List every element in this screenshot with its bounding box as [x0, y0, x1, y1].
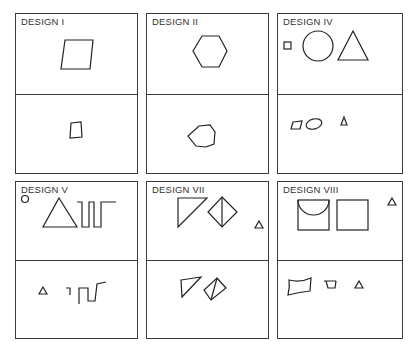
skewed-triangle-shape: [181, 277, 201, 297]
panel-design-5: DESIGN V: [15, 181, 138, 339]
trapezoid-shape: [324, 281, 336, 288]
panel-design-2: DESIGN II: [146, 13, 269, 174]
distorted-quadrilateral-shape: [288, 278, 311, 295]
triangle-shape: [43, 198, 77, 227]
small-parallelogram-shape: [291, 121, 302, 129]
small-triangle-shape-2: [355, 281, 363, 288]
panel-drawing: [147, 182, 270, 340]
right-triangle-shape: [178, 198, 207, 227]
ellipse-shape: [305, 117, 323, 131]
small-circle-shape: [22, 196, 29, 203]
small-triangle-shape: [388, 198, 396, 205]
square-wave-fragment-shape-2: [79, 282, 106, 304]
panel-drawing: [278, 14, 404, 175]
panel-drawing: [278, 182, 404, 340]
parallelogram-shape: [61, 40, 93, 69]
panel-drawing: [16, 182, 139, 340]
panel-design-1: DESIGN I: [15, 13, 138, 174]
square-shape: [337, 200, 368, 230]
small-square-shape: [284, 42, 291, 49]
small-triangle-shape: [39, 287, 47, 294]
small-irregular-hexagon-shape: [188, 125, 215, 147]
skewed-diamond-shape: [204, 278, 226, 300]
triangle-shape: [338, 31, 368, 60]
small-parallelogram-shape: [70, 122, 82, 138]
small-triangle-shape: [341, 117, 347, 125]
arc-shape: [298, 200, 329, 215]
panel-design-4: DESIGN IV: [277, 13, 403, 174]
panel-design-8: DESIGN VIII: [277, 181, 403, 339]
square-wave-shape: [77, 202, 116, 227]
panel-design-7: DESIGN VII: [146, 181, 269, 339]
square-wave-fragment-shape: [66, 288, 70, 295]
small-triangle-shape: [255, 221, 263, 228]
panel-drawing: [16, 14, 139, 175]
circle-shape: [303, 31, 333, 61]
hexagon-shape: [193, 36, 227, 67]
panel-drawing: [147, 14, 270, 175]
